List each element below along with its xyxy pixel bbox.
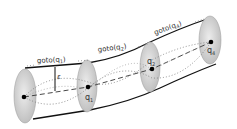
point-start — [22, 95, 27, 100]
point-q4 — [209, 40, 214, 45]
point-q1 — [86, 85, 91, 90]
segment-label-2: goto(q2) — [97, 42, 127, 54]
point-q2 — [150, 67, 155, 72]
segment-label-1: goto(q1) — [37, 55, 67, 65]
radius-label: ε — [57, 73, 61, 81]
tube-diagram: ε q1 q2 q4 goto(q1) goto(q2) goto(q4) — [0, 0, 237, 129]
